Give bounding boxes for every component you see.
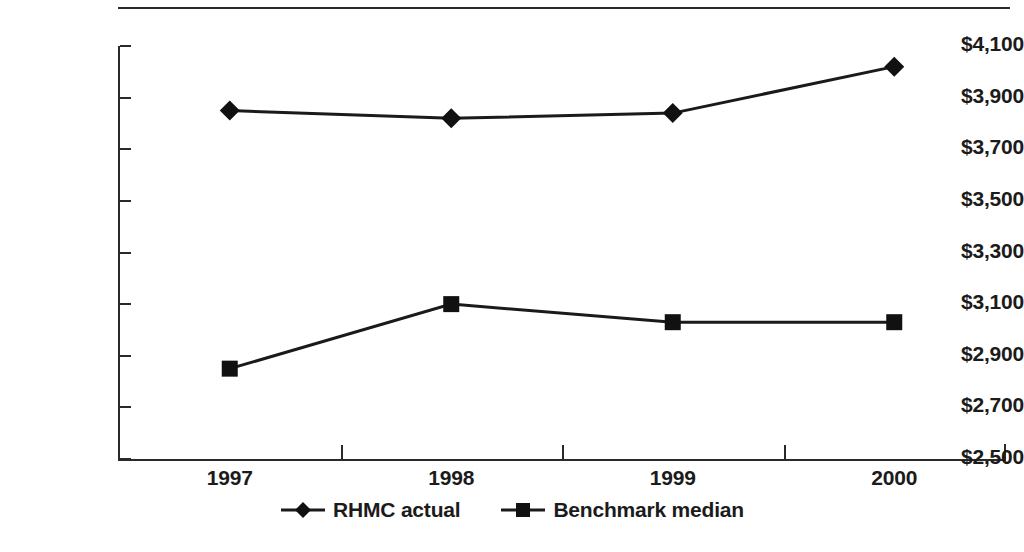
series-line xyxy=(230,67,895,119)
chart-figure: $2,500$2,700$2,900$3,100$3,300$3,500$3,7… xyxy=(0,0,1024,552)
y-axis-tick-label: $3,300 xyxy=(920,239,1024,263)
top-rule-divider xyxy=(118,7,1010,9)
data-point-marker xyxy=(443,296,459,312)
y-axis-tick xyxy=(120,252,131,254)
y-axis-tick xyxy=(120,148,131,150)
data-point-marker xyxy=(663,103,683,123)
series-line xyxy=(230,304,895,369)
data-point-marker xyxy=(222,361,238,377)
square-marker-icon xyxy=(500,499,546,521)
y-axis-tick xyxy=(120,200,131,202)
legend-label-rhmc-actual: RHMC actual xyxy=(333,498,460,522)
x-axis-tick-label: 1998 xyxy=(371,466,531,490)
data-point-marker xyxy=(665,314,681,330)
y-axis-tick-label: $3,100 xyxy=(920,290,1024,314)
data-point-marker xyxy=(441,108,461,128)
legend-label-benchmark-median: Benchmark median xyxy=(553,498,744,522)
y-axis-tick xyxy=(120,303,131,305)
x-axis-tick-label: 1999 xyxy=(593,466,753,490)
y-axis-tick xyxy=(120,45,131,47)
x-axis-tick-label: 2000 xyxy=(814,466,974,490)
data-point-marker xyxy=(886,314,902,330)
y-axis-tick-label: $4,100 xyxy=(920,32,1024,56)
y-axis-tick xyxy=(120,355,131,357)
diamond-marker-icon xyxy=(280,499,326,521)
legend-item-benchmark-median: Benchmark median xyxy=(500,498,744,522)
y-axis-tick xyxy=(120,97,131,99)
x-axis-tick xyxy=(341,445,343,459)
series-benchmark-median xyxy=(222,296,903,377)
y-axis-tick-label: $3,900 xyxy=(920,84,1024,108)
y-axis-tick xyxy=(120,406,131,408)
x-axis-tick xyxy=(562,445,564,459)
data-point-marker xyxy=(220,101,240,121)
y-axis-tick-label: $3,700 xyxy=(920,135,1024,159)
chart-legend: RHMC actual Benchmark median xyxy=(0,498,1024,522)
legend-item-rhmc-actual: RHMC actual xyxy=(280,498,460,522)
series-rhmc-actual xyxy=(220,57,905,129)
x-axis-tick xyxy=(784,445,786,459)
y-axis-tick xyxy=(120,458,131,460)
y-axis-tick-label: $3,500 xyxy=(920,187,1024,211)
y-axis-tick-label: $2,700 xyxy=(920,393,1024,417)
x-axis-line xyxy=(118,459,1006,461)
data-point-marker xyxy=(884,57,904,77)
y-axis-tick-label: $2,900 xyxy=(920,342,1024,366)
x-axis-tick-label: 1997 xyxy=(150,466,310,490)
